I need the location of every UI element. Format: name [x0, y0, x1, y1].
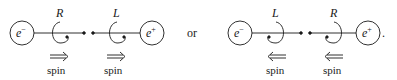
electron-label: e−	[16, 25, 26, 40]
trailing-period: .	[382, 26, 385, 40]
helicity-label: L	[271, 6, 279, 20]
electron-momentum-dot	[83, 32, 86, 35]
spin-label: spin	[266, 64, 285, 76]
positron-label: e+	[362, 25, 372, 40]
helicity-diagram: e− e+ R L spin spin or e− e+ . L R spin …	[0, 0, 397, 80]
spin-arrow-left-icon	[268, 52, 286, 61]
spin-label: spin	[47, 64, 66, 76]
left-configuration	[10, 21, 164, 61]
helicity-label: L	[112, 6, 120, 20]
electron-label: e−	[234, 25, 244, 40]
separator-text: or	[187, 26, 197, 40]
spin-arrow-right-icon	[50, 52, 68, 61]
positron-label: e+	[146, 25, 156, 40]
helicity-label: R	[55, 6, 64, 20]
helicity-curl-right-icon	[326, 22, 342, 43]
electron-momentum-dot	[300, 32, 303, 35]
helicity-curl-left-icon	[110, 22, 126, 43]
right-configuration	[228, 21, 380, 61]
spin-arrow-left-icon	[325, 52, 343, 61]
spin-arrow-right-icon	[107, 52, 125, 61]
spin-label: spin	[104, 64, 123, 76]
helicity-curl-left-icon	[268, 22, 284, 43]
helicity-curl-right-icon	[53, 22, 69, 43]
spin-label: spin	[323, 64, 342, 76]
helicity-label: R	[329, 6, 338, 20]
